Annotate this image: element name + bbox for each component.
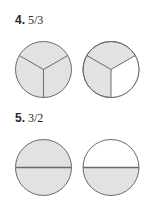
problem-5-number: 5. xyxy=(15,111,25,125)
problem-5-fraction: 3/2 xyxy=(28,111,43,125)
problem-5-circle-2 xyxy=(83,140,139,196)
problem-4-circle-2 xyxy=(83,42,139,98)
problem-5-label: 5.3/2 xyxy=(15,111,43,125)
problem-5-circle-1 xyxy=(16,140,72,196)
fraction-circles xyxy=(0,0,153,205)
problem-4-circle-1 xyxy=(16,42,72,98)
